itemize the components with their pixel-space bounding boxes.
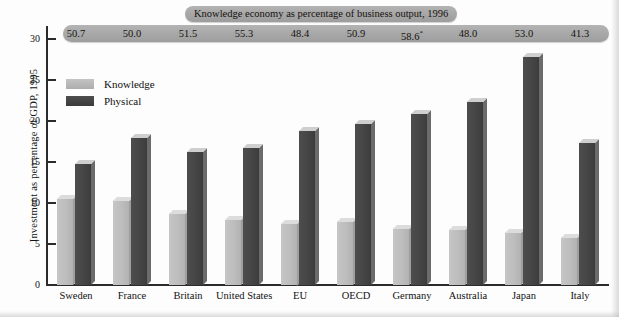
bar-front-face xyxy=(187,152,203,285)
bar-side-face xyxy=(595,139,599,285)
y-axis-tick-label: 30 xyxy=(18,34,40,44)
banner-value-italy: 41.3 xyxy=(552,25,608,42)
x-axis-label-oecd: OECD xyxy=(328,290,384,302)
x-axis-label-united-states: United States xyxy=(216,290,272,302)
bar-front-face xyxy=(355,124,371,285)
banner-values-bar: 50.750.051.555.348.450.958.6*48.053.041.… xyxy=(63,25,609,42)
y-axis-tick xyxy=(48,284,56,285)
bar-front-face xyxy=(561,238,577,285)
bar-front-face xyxy=(243,148,259,285)
bar-physical-oecd xyxy=(355,124,371,285)
legend-label-physical: Physical xyxy=(104,94,141,109)
bar-front-face xyxy=(299,131,315,285)
banner-value-france: 50.0 xyxy=(104,25,160,42)
bar-knowledge-australia xyxy=(449,230,465,285)
bar-knowledge-united-states xyxy=(225,220,241,285)
bar-front-face xyxy=(411,114,427,285)
banner-value-oecd: 50.9 xyxy=(328,25,384,42)
banner-value-united-states: 55.3 xyxy=(216,25,272,42)
bar-front-face xyxy=(579,143,595,285)
bar-side-face xyxy=(483,98,487,285)
y-axis-tick-label: 15 xyxy=(18,157,40,167)
banner-value-eu: 48.4 xyxy=(272,25,328,42)
legend-swatch-physical xyxy=(66,96,94,106)
bar-side-face xyxy=(539,53,543,285)
banner-value-britain: 51.5 xyxy=(160,25,216,42)
y-axis-tick-label: 10 xyxy=(18,198,40,208)
bar-front-face xyxy=(131,138,147,285)
bar-front-face xyxy=(523,57,539,285)
bar-knowledge-germany xyxy=(393,229,409,285)
banner-value-sweden: 50.7 xyxy=(48,25,104,42)
bar-physical-united-states xyxy=(243,148,259,285)
x-axis-label-eu: EU xyxy=(272,290,328,302)
bar-physical-italy xyxy=(579,143,595,285)
y-axis-tick-label: 25 xyxy=(18,75,40,85)
bar-physical-eu xyxy=(299,131,315,285)
banner-title: Knowledge economy as percentage of busin… xyxy=(185,6,457,22)
plot-area: Knowledge economy as percentage of busin… xyxy=(0,0,619,317)
bar-side-face xyxy=(371,120,375,285)
bar-front-face xyxy=(281,224,297,286)
bar-side-face xyxy=(91,160,95,285)
bar-front-face xyxy=(449,230,465,285)
bar-knowledge-eu xyxy=(281,224,297,286)
bar-front-face xyxy=(467,102,483,285)
y-axis-tick xyxy=(48,120,56,121)
banner-value-australia: 48.0 xyxy=(440,25,496,42)
legend-label-knowledge: Knowledge xyxy=(104,77,155,92)
y-axis-tick xyxy=(48,243,56,244)
page-scan-edge-right xyxy=(611,0,619,317)
y-axis-tick-label: 0 xyxy=(18,280,40,290)
page-scan-edge-bottom xyxy=(0,311,619,317)
y-axis-line xyxy=(46,26,48,285)
bar-physical-britain xyxy=(187,152,203,285)
y-axis-tick xyxy=(48,79,56,80)
bar-front-face xyxy=(57,199,73,285)
legend-swatch-knowledge xyxy=(66,79,94,89)
y-axis-tick xyxy=(48,161,56,162)
x-axis-label-france: France xyxy=(104,290,160,302)
x-axis-label-italy: Italy xyxy=(552,290,608,302)
bar-front-face xyxy=(393,229,409,285)
bar-knowledge-japan xyxy=(505,233,521,285)
x-axis-label-britain: Britain xyxy=(160,290,216,302)
bar-physical-japan xyxy=(523,57,539,285)
bar-side-face xyxy=(315,127,319,285)
bar-front-face xyxy=(75,164,91,285)
banner-value-germany: 58.6* xyxy=(384,25,440,42)
bar-knowledge-italy xyxy=(561,238,577,285)
x-axis-label-australia: Australia xyxy=(440,290,496,302)
bar-front-face xyxy=(169,214,185,285)
x-axis-label-germany: Germany xyxy=(384,290,440,302)
bar-side-face xyxy=(259,144,263,285)
bar-physical-australia xyxy=(467,102,483,285)
bar-top-face xyxy=(281,220,301,224)
bar-physical-france xyxy=(131,138,147,285)
chart-figure: Knowledge economy as percentage of busin… xyxy=(0,0,619,317)
bar-front-face xyxy=(113,201,129,285)
bar-side-face xyxy=(203,148,207,285)
bar-front-face xyxy=(505,233,521,285)
bar-knowledge-sweden xyxy=(57,199,73,285)
bar-front-face xyxy=(337,222,353,285)
bar-side-face xyxy=(147,134,151,285)
y-axis-tick xyxy=(48,202,56,203)
y-axis-tick xyxy=(48,38,56,39)
bar-knowledge-france xyxy=(113,201,129,285)
bar-side-face xyxy=(427,110,431,285)
bar-physical-sweden xyxy=(75,164,91,285)
bar-physical-germany xyxy=(411,114,427,285)
y-axis-tick-label: 5 xyxy=(18,239,40,249)
x-axis-label-japan: Japan xyxy=(496,290,552,302)
bar-knowledge-britain xyxy=(169,214,185,285)
x-axis-label-sweden: Sweden xyxy=(48,290,104,302)
banner-value-japan: 53.0 xyxy=(496,25,552,42)
y-axis-tick-label: 20 xyxy=(18,116,40,126)
bar-knowledge-oecd xyxy=(337,222,353,285)
bar-front-face xyxy=(225,220,241,285)
